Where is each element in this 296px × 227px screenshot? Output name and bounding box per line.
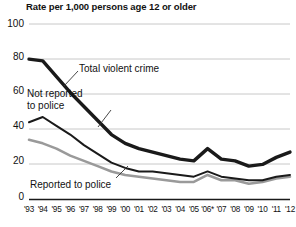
series-label-not-reported-to-police: Not reported to police <box>27 88 83 111</box>
x-axis-tick-97: '97 <box>79 205 89 214</box>
x-axis-tick-95: '95 <box>52 205 62 214</box>
series-label-not-reported-line2: to police <box>27 100 64 111</box>
x-axis-tick-12: '12 <box>285 205 295 214</box>
x-axis-tick-99: '99 <box>107 205 117 214</box>
x-axis-tick-02: '02 <box>148 205 158 214</box>
x-axis-tick-11: '11 <box>272 205 281 214</box>
leader-line-not-reported <box>98 110 111 127</box>
x-axis-tick-94: '94 <box>38 205 48 214</box>
x-axis-tick-05: '05 <box>189 205 199 214</box>
x-axis-tick-labels: '93'94'95'96'97'98'99'00'01'02'03'04'05'… <box>0 205 296 221</box>
series-label-total-violent-crime: Total violent crime <box>79 63 159 75</box>
x-axis-tick-93: '93 <box>24 205 34 214</box>
series-line-total-violent-crime <box>29 59 290 166</box>
leader-line-total <box>64 71 78 86</box>
x-axis-tick-96: '96 <box>65 205 75 214</box>
x-axis-tick-03: '03 <box>162 205 172 214</box>
series-line-not-reported-to-police <box>29 117 290 180</box>
x-axis-tick-06*: '06* <box>201 205 214 214</box>
x-axis-tick-09: '09 <box>244 205 254 214</box>
x-axis-tick-10: '10 <box>258 205 268 214</box>
series-label-not-reported-line1: Not reported <box>27 88 83 99</box>
x-axis-tick-98: '98 <box>93 205 103 214</box>
series-line-reported-to-police <box>29 140 290 184</box>
x-axis-tick-00: '00 <box>120 205 130 214</box>
violent-crime-rate-chart: Rate per 1,000 persons age 12 or older 1… <box>0 0 296 227</box>
x-axis-tick-04: '04 <box>175 205 185 214</box>
x-axis-tick-07: '07 <box>216 205 226 214</box>
x-axis-tick-08: '08 <box>230 205 240 214</box>
plot-area <box>0 0 296 227</box>
x-axis-tick-01: '01 <box>134 205 144 214</box>
series-label-reported-to-police: Reported to police <box>30 179 111 191</box>
